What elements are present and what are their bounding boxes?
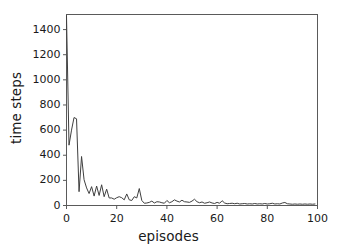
y-tick-label: 200 [0, 173, 61, 186]
y-tick-label: 1400 [0, 23, 61, 36]
y-tick-label: 0 [0, 199, 61, 212]
x-tick-label: 80 [242, 212, 292, 225]
y-axis-title: time steps [8, 48, 24, 168]
x-tick-label: 100 [293, 212, 337, 225]
x-tick-label: 0 [42, 212, 92, 225]
chart-figure: 0200400600800100012001400 020406080100 e… [0, 0, 337, 252]
x-axis-title: episodes [0, 228, 337, 244]
x-tick-label: 20 [92, 212, 142, 225]
x-tick-label: 40 [142, 212, 192, 225]
x-tick-label: 60 [192, 212, 242, 225]
